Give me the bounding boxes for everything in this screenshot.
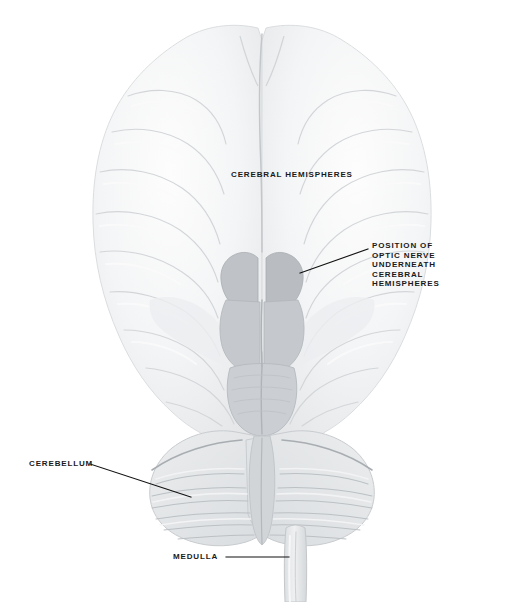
interpeduncular-fossa: [261, 300, 262, 366]
label-optic-nerve-line-5: HEMISPHERES: [372, 279, 440, 289]
label-optic-nerve-line-2: OPTIC NERVE: [372, 251, 440, 261]
label-optic-nerve-line-1: POSITION OF: [372, 241, 440, 251]
label-cerebellum: CEREBELLUM: [29, 459, 93, 469]
label-medulla: MEDULLA: [173, 552, 218, 562]
label-optic-nerve-line-4: CEREBRAL: [372, 270, 440, 280]
label-optic-nerve-line-3: UNDERNEATH: [372, 260, 440, 270]
label-optic-nerve-position: POSITION OF OPTIC NERVE UNDERNEATH CEREB…: [372, 241, 440, 289]
medulla-group: [284, 525, 306, 602]
basilar-sulcus: [261, 366, 262, 434]
brain-diagram-figure: CEREBRAL HEMISPHERES POSITION OF OPTIC N…: [0, 0, 521, 602]
cerebellum-group: [150, 431, 375, 546]
brain-illustration: [0, 0, 521, 602]
medulla-left-highlight: [289, 536, 290, 602]
label-cerebral-hemispheres: CEREBRAL HEMISPHERES: [231, 170, 353, 180]
